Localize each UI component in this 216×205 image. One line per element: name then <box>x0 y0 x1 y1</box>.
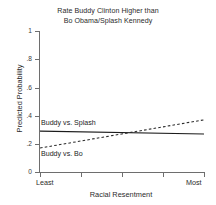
series-annotation-buddy-vs-bo: Buddy vs. Bo <box>41 150 83 158</box>
series-annotation-buddy-vs-splash: Buddy vs. Splash <box>41 119 96 127</box>
chart-figure: Rate Buddy Clinton Higher than Bo Obama/… <box>0 0 216 205</box>
plot-area <box>0 0 216 205</box>
